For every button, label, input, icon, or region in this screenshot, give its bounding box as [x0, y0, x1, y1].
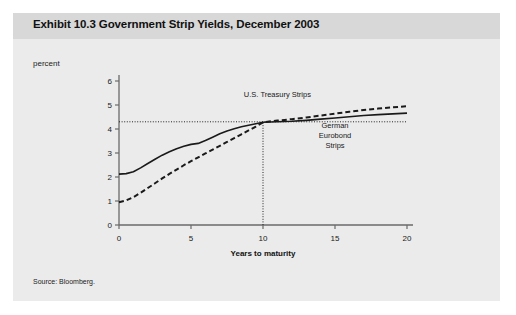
us-treasury-strips-label-line: U.S. Treasury Strips — [244, 90, 311, 99]
source-note: Source: Bloomberg. — [33, 278, 95, 285]
y-axis-tick-label: 6 — [108, 77, 113, 86]
y-axis-tick-label: 3 — [108, 149, 113, 158]
y-axis-tick-label: 1 — [108, 197, 113, 206]
y-axis-tick-label: 5 — [108, 101, 113, 110]
x-axis-tick-label: 15 — [331, 234, 340, 243]
chart-plot-area: 012345605101520Years to maturityU.S. Tre… — [13, 13, 500, 301]
us-treasury-strips-label: U.S. Treasury Strips — [244, 90, 311, 99]
german-eurobond-strips-label-line: German — [321, 121, 348, 130]
yield-curve-chart: 012345605101520Years to maturityU.S. Tre… — [13, 13, 500, 301]
german-eurobond-strips-label: GermanEurobondStrips — [319, 121, 352, 150]
y-axis-tick-label: 4 — [108, 125, 113, 134]
x-axis-tick-label: 20 — [403, 234, 412, 243]
x-axis-title: Years to maturity — [231, 249, 296, 258]
y-axis-tick-label: 0 — [108, 221, 113, 230]
x-axis-tick-label: 0 — [117, 234, 122, 243]
y-axis-tick-label: 2 — [108, 173, 113, 182]
german-eurobond-strips-label-line: Eurobond — [319, 131, 352, 140]
exhibit-panel: Exhibit 10.3 Government Strip Yields, De… — [13, 13, 500, 301]
x-axis-tick-label: 5 — [189, 234, 194, 243]
x-axis-tick-label: 10 — [259, 234, 268, 243]
german-eurobond-strips-label-line: Strips — [325, 141, 344, 150]
